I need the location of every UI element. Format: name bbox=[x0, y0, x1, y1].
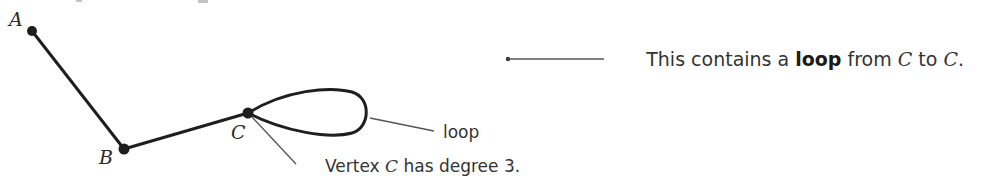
degree-annotation: Vertex C has degree 3. bbox=[298, 156, 536, 176]
loop-leader-line bbox=[370, 118, 434, 131]
degree-suffix: has degree 3. bbox=[398, 156, 520, 176]
callout-vertex-2: C bbox=[943, 48, 958, 70]
vertex-c bbox=[243, 108, 254, 119]
edge-a-b bbox=[32, 31, 124, 149]
cropped-heading-fragment bbox=[76, 0, 208, 3]
callout-end: . bbox=[958, 48, 964, 70]
vertex-a bbox=[27, 26, 37, 36]
vertex-label-b: B bbox=[98, 146, 113, 168]
edge-loop-c bbox=[248, 90, 366, 136]
vertex-b bbox=[119, 144, 130, 155]
callout-vertex-1: C bbox=[898, 48, 913, 70]
vertex-label-a: A bbox=[7, 8, 23, 30]
degree-prefix: Vertex bbox=[325, 156, 385, 176]
callout-prefix: This contains a bbox=[645, 48, 795, 70]
callout-text: This contains a loop from C to C. bbox=[616, 48, 982, 70]
callout-mid: from bbox=[841, 48, 897, 70]
loop-annotation: loop bbox=[443, 122, 479, 142]
graph-diagram: A B C loop Vertex C has degree 3. This c… bbox=[0, 0, 985, 182]
callout-bold-loop: loop bbox=[795, 48, 841, 70]
callout-to: to bbox=[912, 48, 943, 70]
vertex-label-c: C bbox=[231, 121, 246, 143]
edge-b-c bbox=[124, 113, 248, 149]
degree-vertex: C bbox=[385, 156, 398, 176]
